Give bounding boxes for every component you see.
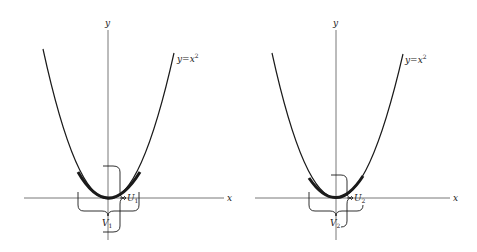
label-V: V1 <box>102 218 112 229</box>
parabola-curve <box>43 49 174 199</box>
label-U: U2 <box>354 193 366 204</box>
curve-label: y=x2 <box>404 53 427 65</box>
label-V: V2 <box>330 218 341 229</box>
vertical-brace-U <box>113 166 124 232</box>
y-axis-label: y <box>332 18 339 28</box>
curve-label: y=x2 <box>176 52 199 64</box>
diagram-canvas: x y y=x2 U1 V1 x <box>0 0 477 252</box>
y-axis-label: y <box>104 18 111 28</box>
label-U: U1 <box>127 193 138 204</box>
vertical-brace-U <box>341 175 351 227</box>
x-axis-label: x <box>453 193 458 203</box>
x-axis-label: x <box>227 193 232 203</box>
parabola-curve <box>272 53 403 198</box>
horizontal-brace-V <box>78 205 139 216</box>
figure-right: x y y=x2 U2 V2 <box>255 18 458 240</box>
figure-left: x y y=x2 U1 V1 <box>24 18 232 240</box>
